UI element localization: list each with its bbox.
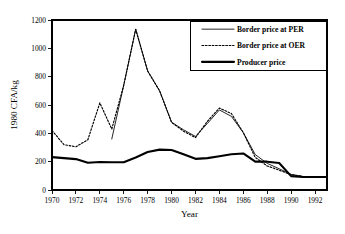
x-tick-label: 1984 — [212, 196, 227, 205]
x-tick-label: 1972 — [69, 196, 84, 205]
x-axis-ticks — [52, 190, 315, 194]
x-axis-tick-labels: 1970197219741976197819801982198419861988… — [45, 196, 323, 205]
y-tick-label: 400 — [35, 129, 46, 138]
x-axis-title: Year — [181, 209, 198, 219]
x-tick-label: 1970 — [45, 196, 60, 205]
y-tick-label: 600 — [35, 101, 46, 110]
y-axis-title: 1980 CFA/kg — [9, 80, 19, 130]
x-tick-label: 1992 — [308, 196, 323, 205]
chart-legend: Border price at PERBorder price at OERPr… — [190, 21, 326, 70]
x-tick-label: 1988 — [260, 196, 275, 205]
legend-label-3: Producer price — [237, 58, 286, 67]
legend-label-2: Border price at OER — [237, 41, 305, 50]
y-tick-label: 200 — [35, 157, 46, 166]
x-tick-label: 1990 — [284, 196, 299, 205]
chart-figure: 020040060080010001200 197019721974197619… — [0, 0, 345, 234]
y-axis-ticks — [48, 20, 52, 190]
x-tick-label: 1982 — [188, 196, 203, 205]
y-tick-label: 800 — [35, 72, 46, 81]
y-tick-label: 1000 — [31, 44, 46, 53]
x-tick-label: 1974 — [92, 196, 107, 205]
x-tick-label: 1976 — [116, 196, 131, 205]
line-chart: 020040060080010001200 197019721974197619… — [0, 0, 345, 234]
x-tick-label: 1980 — [164, 196, 179, 205]
y-axis-tick-labels: 020040060080010001200 — [31, 16, 46, 195]
y-tick-label: 1200 — [31, 16, 46, 25]
y-tick-label: 0 — [42, 186, 46, 195]
legend-label-1: Border price at PER — [237, 25, 304, 34]
x-tick-label: 1986 — [236, 196, 251, 205]
x-tick-label: 1978 — [140, 196, 155, 205]
